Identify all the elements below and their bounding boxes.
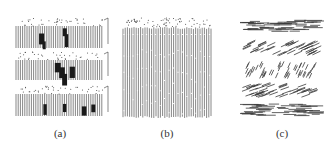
panel-b-diagram xyxy=(121,14,217,122)
panel-b-label: (b) xyxy=(147,127,187,139)
oriented-fiber-layers-c xyxy=(240,14,324,122)
panel-c-diagram xyxy=(240,14,324,122)
aligned-fiber-block-b xyxy=(121,14,217,122)
panel-a-diagram xyxy=(14,14,110,122)
layered-fiber-block-a xyxy=(14,14,110,122)
panel-c-label: (c) xyxy=(262,127,302,139)
panel-a-label: (a) xyxy=(40,127,80,139)
